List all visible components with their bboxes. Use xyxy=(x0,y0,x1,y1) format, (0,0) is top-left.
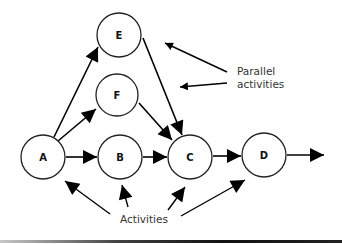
node-c-label: C xyxy=(186,152,193,163)
activity-network-diagram: E F A B C D Parallel activities Activiti… xyxy=(0,0,342,244)
pointer-activities-c xyxy=(168,187,185,210)
node-c: C xyxy=(168,135,212,179)
node-f: F xyxy=(96,74,138,116)
edge-e-c xyxy=(143,38,182,135)
edge-a-e xyxy=(54,47,98,137)
node-e-label: E xyxy=(116,30,123,41)
parallel-activities-label-line1: Parallel xyxy=(237,65,275,77)
activities-label: Activities xyxy=(120,213,168,225)
pointer-parallel-2 xyxy=(180,83,227,87)
node-b: B xyxy=(98,135,142,179)
node-d: D xyxy=(242,133,286,177)
parallel-activities-label-line2: activities xyxy=(237,78,284,90)
pointer-parallel-1 xyxy=(165,43,227,72)
pointer-activities-d xyxy=(181,180,245,216)
node-a: A xyxy=(21,135,65,179)
edge-f-c xyxy=(139,103,172,140)
pointer-activities-b xyxy=(122,185,128,207)
node-b-label: B xyxy=(116,152,124,163)
node-f-label: F xyxy=(114,90,121,101)
pointer-activities-a xyxy=(65,181,110,214)
node-d-label: D xyxy=(260,150,268,161)
node-a-label: A xyxy=(39,152,47,163)
bottom-divider xyxy=(0,240,342,243)
node-e: E xyxy=(97,13,141,57)
edge-a-f xyxy=(58,109,96,141)
